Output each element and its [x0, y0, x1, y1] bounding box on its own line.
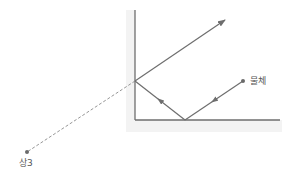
corner-mirror-diagram [0, 0, 296, 181]
virtual-ray-dashed [27, 81, 135, 152]
vertical-mirror-backing [126, 10, 135, 132]
reflected-ray-1 [135, 81, 185, 120]
object-label: 물체 [250, 76, 266, 86]
reflected-ray-2 [135, 20, 225, 81]
horizontal-mirror-backing [126, 120, 282, 132]
image-label: 상3 [19, 158, 33, 168]
image-point [25, 150, 29, 154]
object-point [241, 79, 245, 83]
incident-ray [185, 81, 243, 120]
